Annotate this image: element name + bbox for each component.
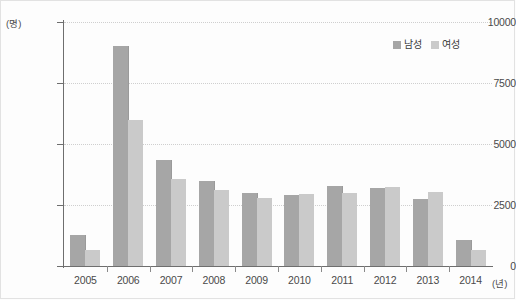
bar-group bbox=[113, 22, 143, 266]
legend-swatch-male-icon bbox=[393, 41, 401, 49]
bar-여성-2011[interactable] bbox=[342, 193, 357, 266]
bar-group bbox=[370, 22, 400, 266]
x-tick-mark bbox=[321, 266, 322, 272]
bar-남성-2012[interactable] bbox=[370, 188, 386, 266]
bar-여성-2008[interactable] bbox=[214, 190, 229, 266]
bar-여성-2012[interactable] bbox=[385, 187, 400, 266]
bar-group bbox=[242, 22, 272, 266]
bar-여성-2009[interactable] bbox=[257, 198, 272, 266]
bar-남성-2009[interactable] bbox=[242, 193, 258, 266]
bar-group bbox=[413, 22, 443, 266]
legend: 남성 여성 bbox=[393, 40, 460, 50]
legend-label-female: 여성 bbox=[442, 40, 460, 50]
bar-여성-2007[interactable] bbox=[171, 179, 186, 266]
plot-area bbox=[64, 22, 492, 266]
bar-남성-2011[interactable] bbox=[327, 186, 343, 266]
bar-남성-2013[interactable] bbox=[413, 199, 429, 266]
x-tick-mark bbox=[107, 266, 108, 272]
x-tick-mark bbox=[406, 266, 407, 272]
bar-group bbox=[327, 22, 357, 266]
bar-group bbox=[456, 22, 486, 266]
y-tick-mark bbox=[57, 266, 64, 267]
x-tick-label-2014: 2014 bbox=[441, 274, 501, 286]
y-tick-mark bbox=[57, 22, 64, 23]
bar-여성-2014[interactable] bbox=[471, 250, 486, 266]
bar-여성-2005[interactable] bbox=[85, 250, 100, 266]
x-tick-mark bbox=[235, 266, 236, 272]
bar-여성-2010[interactable] bbox=[299, 194, 314, 266]
bar-여성-2006[interactable] bbox=[128, 120, 143, 266]
bar-group bbox=[156, 22, 186, 266]
bar-group bbox=[70, 22, 100, 266]
bar-group bbox=[284, 22, 314, 266]
bar-남성-2005[interactable] bbox=[70, 235, 86, 266]
bar-남성-2010[interactable] bbox=[284, 195, 300, 266]
y-axis-unit-label: (명) bbox=[6, 16, 21, 30]
bar-group bbox=[199, 22, 229, 266]
x-tick-mark bbox=[150, 266, 151, 272]
y-tick-mark bbox=[57, 205, 64, 206]
legend-swatch-female-icon bbox=[431, 41, 439, 49]
x-tick-mark bbox=[278, 266, 279, 272]
bar-남성-2008[interactable] bbox=[199, 181, 215, 266]
y-tick-mark bbox=[57, 144, 64, 145]
bar-여성-2013[interactable] bbox=[428, 192, 443, 266]
x-tick-mark bbox=[449, 266, 450, 272]
x-tick-mark bbox=[364, 266, 365, 272]
x-tick-mark bbox=[192, 266, 193, 272]
bar-chart: (명) (년) 025005000750010000 2005200620072… bbox=[0, 0, 516, 300]
legend-item-male[interactable]: 남성 bbox=[393, 40, 422, 50]
y-tick-mark bbox=[57, 83, 64, 84]
bar-남성-2014[interactable] bbox=[456, 240, 472, 266]
legend-item-female[interactable]: 여성 bbox=[431, 40, 460, 50]
bar-남성-2007[interactable] bbox=[156, 160, 172, 266]
legend-label-male: 남성 bbox=[404, 40, 422, 50]
bar-남성-2006[interactable] bbox=[113, 46, 129, 266]
